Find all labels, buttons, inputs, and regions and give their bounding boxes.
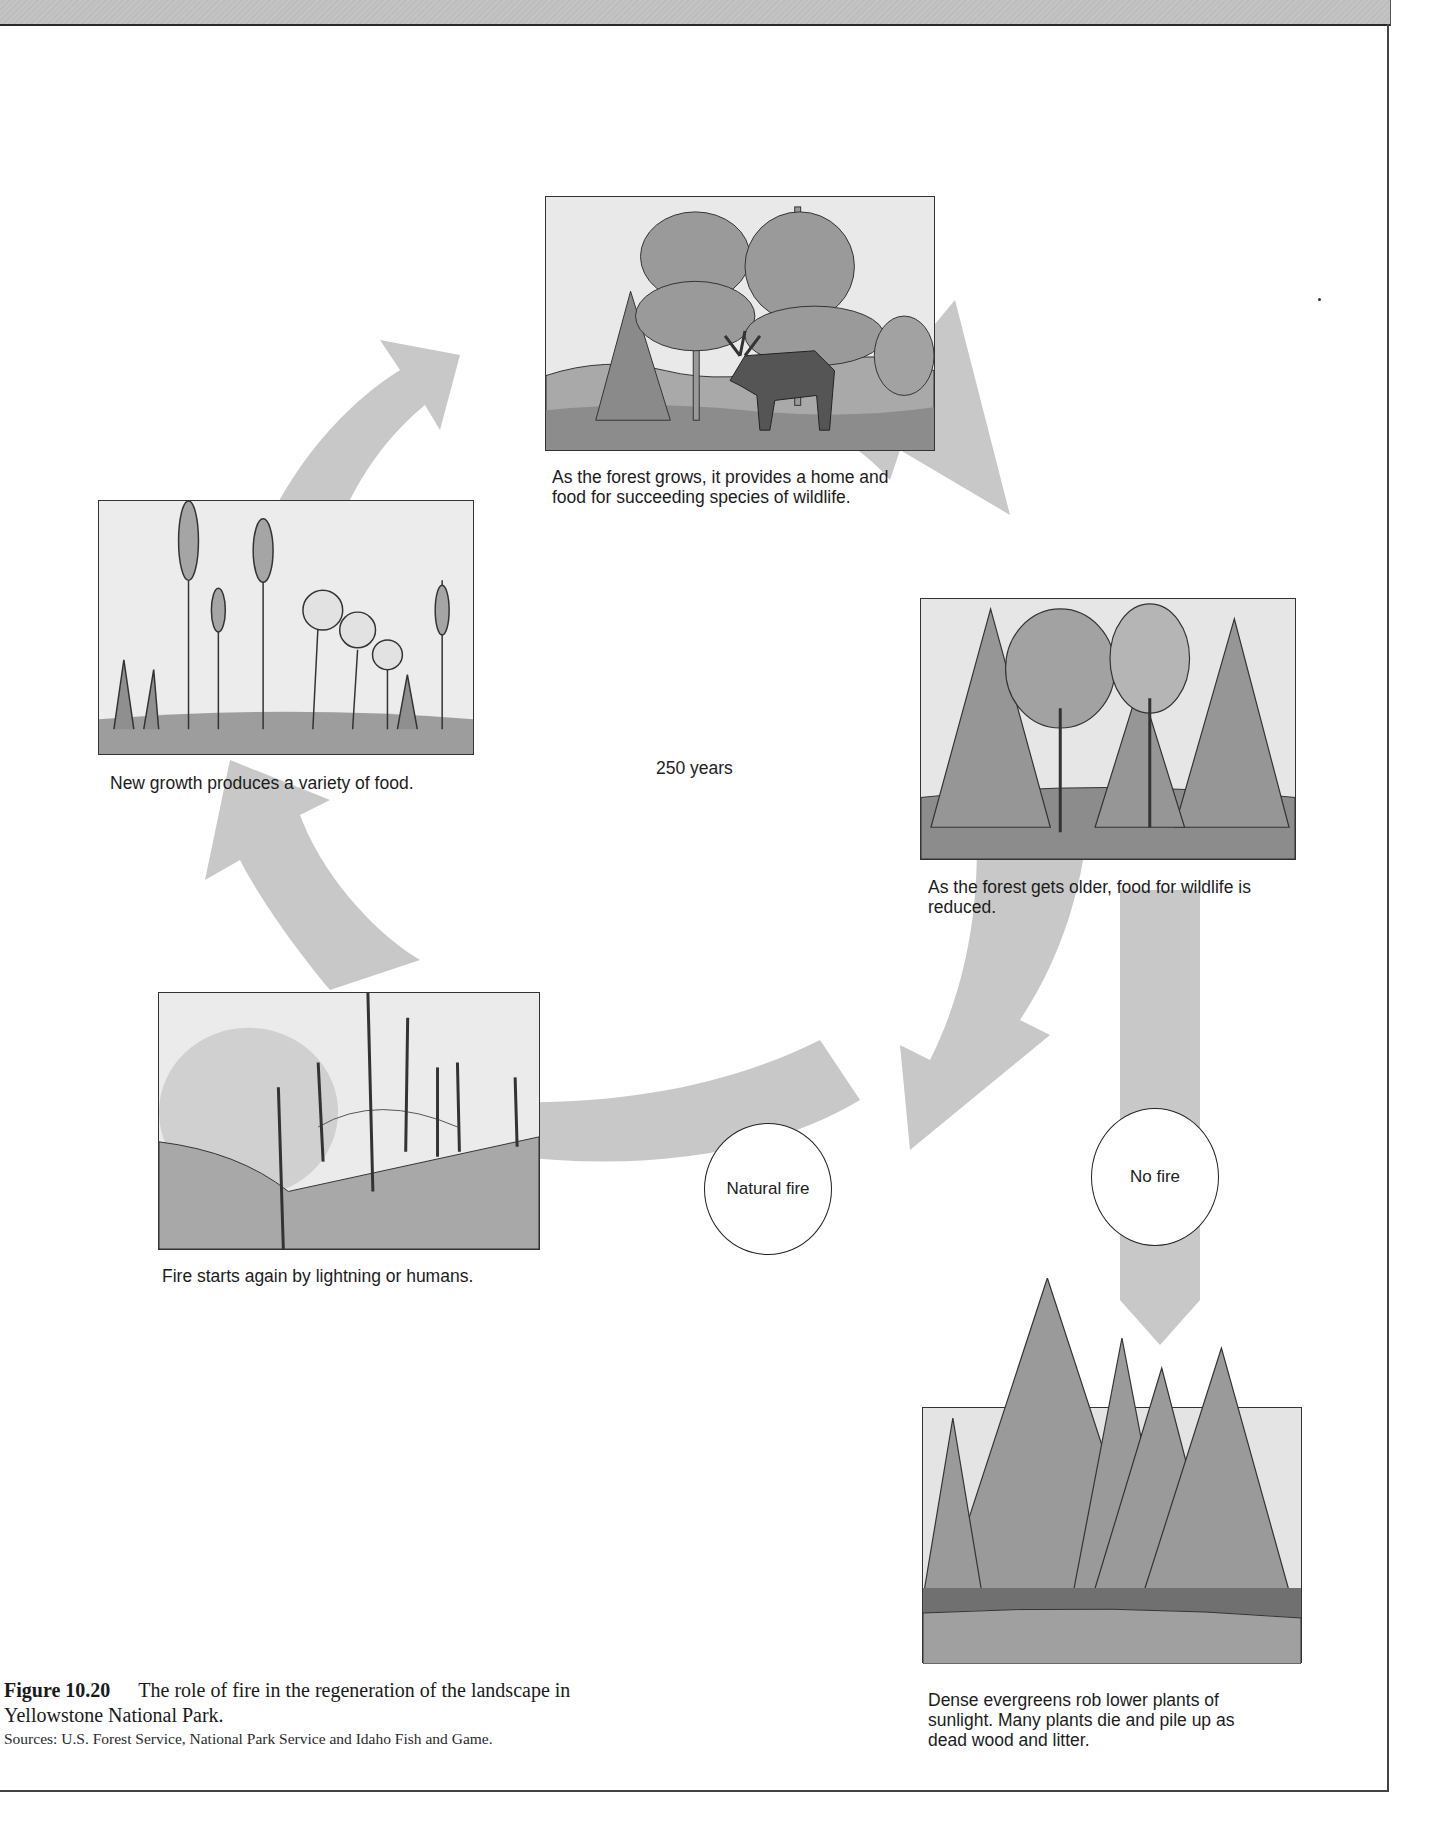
caption-growing-forest: As the forest grows, it provides a home … <box>552 467 902 507</box>
burned-forest-illustration <box>159 993 539 1249</box>
figure-number: Figure 10.20 <box>4 1679 110 1701</box>
caption-older-forest: As the forest gets older, food for wildl… <box>928 877 1308 917</box>
caption-new-growth: New growth produces a variety of food. <box>110 773 490 793</box>
moose-forest-illustration <box>546 197 934 450</box>
wildflowers-illustration <box>99 501 473 754</box>
cycle-duration-label: 250 years <box>656 758 733 779</box>
panel-growing-forest <box>545 196 935 451</box>
mature-forest-illustration <box>921 599 1295 859</box>
caption-dense-evergreens: Dense evergreens rob lower plants of sun… <box>928 1690 1273 1750</box>
decision-no-fire: No fire <box>1091 1108 1219 1246</box>
panel-older-forest <box>920 598 1296 860</box>
panel-fire <box>158 992 540 1250</box>
dense-conifers-illustration <box>923 1278 1301 1664</box>
panel-new-growth <box>98 500 474 755</box>
figure-caption: Figure 10.20The role of fire in the rege… <box>4 1678 664 1728</box>
decision-natural-fire: Natural fire <box>704 1123 832 1255</box>
figure-sources: Sources: U.S. Forest Service, National P… <box>4 1730 493 1748</box>
arrow-segment-left <box>205 760 420 990</box>
panel-dense-evergreens <box>922 1407 1302 1663</box>
caption-fire: Fire starts again by lightning or humans… <box>162 1266 562 1286</box>
